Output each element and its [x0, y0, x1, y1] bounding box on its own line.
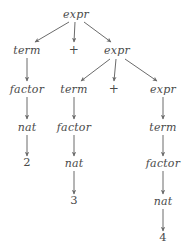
- tree-node-n7-nonterminal: expr: [150, 84, 176, 95]
- tree-node-n10-nonterminal: term: [149, 122, 176, 133]
- tree-node-n6-operator: +: [109, 83, 119, 95]
- tree-node-n12-nonterminal: nat: [65, 158, 84, 169]
- edge-group: [27, 22, 163, 231]
- tree-node-n14-terminal: 3: [70, 195, 78, 207]
- tree-node-n3-nonterminal: expr: [104, 45, 130, 56]
- parse-tree-figure: exprterm+exprfactorterm+exprnatfactorter…: [0, 0, 184, 250]
- tree-node-n4-nonterminal: factor: [10, 84, 44, 95]
- tree-edge-n0-to-n1: [35, 22, 69, 42]
- tree-edge-n0-to-n3: [84, 22, 111, 42]
- tree-node-n5-nonterminal: term: [60, 84, 87, 95]
- tree-edge-n3-to-n7: [125, 59, 157, 81]
- tree-node-n8-nonterminal: nat: [18, 122, 37, 133]
- tree-edge-n0-to-n2: [74, 22, 75, 42]
- tree-node-n16-terminal: 4: [159, 232, 167, 244]
- tree-edge-n3-to-n6: [114, 59, 116, 81]
- tree-node-n11-terminal: 2: [23, 157, 31, 169]
- tree-node-n1-nonterminal: term: [13, 45, 40, 56]
- tree-node-n0-nonterminal: expr: [63, 9, 89, 20]
- tree-node-n9-nonterminal: factor: [57, 122, 91, 133]
- tree-edge-n3-to-n5: [81, 59, 110, 81]
- tree-node-n13-nonterminal: factor: [146, 158, 180, 169]
- tree-node-n15-nonterminal: nat: [154, 196, 173, 207]
- tree-node-n2-operator: +: [69, 44, 79, 56]
